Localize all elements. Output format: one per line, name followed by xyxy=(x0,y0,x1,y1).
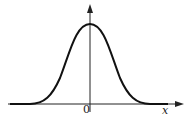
y-axis xyxy=(87,4,93,112)
x-axis-label: x xyxy=(162,104,168,117)
origin-label: 0 xyxy=(83,103,90,116)
bell-curve-diagram xyxy=(0,0,188,124)
bell-curve xyxy=(10,24,168,104)
